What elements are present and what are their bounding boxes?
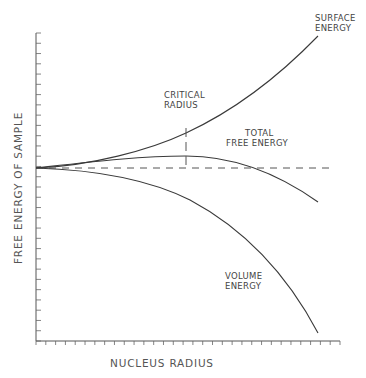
volume-energy-label-line2: ENERGY	[225, 281, 262, 291]
x-axis-ticks	[36, 341, 340, 345]
total-free-energy-label-line1: TOTAL	[244, 128, 273, 138]
volume-energy-curve	[36, 168, 318, 333]
surface-energy-label-line2: ENERGY	[315, 23, 352, 33]
y-axis-ticks	[36, 33, 41, 341]
surface-energy-label-line1: SURFACE	[315, 13, 356, 23]
total-free-energy-curve	[36, 156, 318, 202]
total-free-energy-label-line2: FREE ENERGY	[226, 138, 288, 148]
nucleation-energy-diagram: SURFACE ENERGY CRITICAL RADIUS TOTAL FRE…	[0, 0, 366, 378]
volume-energy-label-line1: VOLUME	[225, 271, 262, 281]
critical-radius-label-line1: CRITICAL	[164, 90, 205, 100]
x-axis-title: NUCLEUS RADIUS	[110, 357, 214, 369]
y-axis-title: FREE ENERGY OF SAMPLE	[12, 112, 24, 264]
critical-radius-label-line2: RADIUS	[164, 100, 198, 110]
